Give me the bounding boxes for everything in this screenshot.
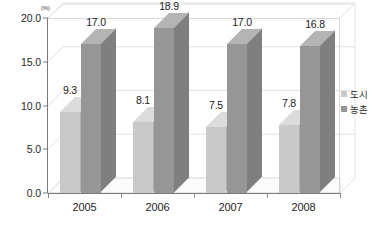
legend-label-dosi: 도시 bbox=[350, 87, 368, 101]
bars-layer: 9.317.08.118.97.517.07.816.8 bbox=[0, 0, 387, 225]
x-axis-category-label: 2005 bbox=[55, 201, 115, 213]
bar-front-face bbox=[227, 44, 247, 193]
bar-side-face bbox=[320, 30, 336, 193]
bar-data-label: 9.3 bbox=[51, 84, 89, 96]
bar-2008-dosi[interactable] bbox=[279, 125, 299, 193]
bar-data-label: 16.8 bbox=[296, 18, 334, 30]
x-axis-tick-mark bbox=[194, 193, 195, 198]
chart-legend: 도시 농촌 bbox=[341, 87, 368, 117]
legend-swatch-icon-nongchon bbox=[341, 106, 347, 112]
bar-top-face bbox=[154, 13, 190, 29]
bar-2007-dosi[interactable] bbox=[206, 127, 226, 193]
x-axis-tick-mark bbox=[121, 193, 122, 198]
legend-swatch-icon-dosi bbox=[341, 91, 347, 97]
bar-data-label: 8.1 bbox=[124, 94, 162, 106]
bar-data-label: 18.9 bbox=[150, 0, 188, 12]
bar-2006-dosi[interactable] bbox=[133, 122, 153, 193]
bar-2006-nongchon[interactable] bbox=[154, 28, 174, 193]
bar-top-face bbox=[81, 29, 117, 45]
legend-label-nongchon: 농촌 bbox=[350, 102, 368, 116]
bar-2008-nongchon[interactable] bbox=[300, 46, 320, 193]
x-axis-category-label: 2008 bbox=[274, 201, 334, 213]
bar-top-face bbox=[300, 31, 336, 47]
bar-side-face bbox=[101, 28, 117, 193]
legend-item-dosi[interactable]: 도시 bbox=[341, 87, 368, 100]
bar-top-face bbox=[227, 29, 263, 45]
bar-front-face bbox=[81, 44, 101, 193]
x-axis-tick-mark bbox=[340, 193, 341, 198]
bar-front-face bbox=[133, 122, 153, 193]
bar-front-face bbox=[206, 127, 226, 193]
bar-side-face bbox=[174, 12, 190, 193]
bar-2007-nongchon[interactable] bbox=[227, 44, 247, 193]
bar-front-face bbox=[300, 46, 320, 193]
bar-chart: (%) 0.05.010.015.020.0 9.317.08.118.97.5… bbox=[0, 0, 387, 225]
bar-front-face bbox=[279, 125, 299, 193]
legend-item-nongchon[interactable]: 농촌 bbox=[341, 102, 368, 115]
bar-2005-dosi[interactable] bbox=[60, 112, 80, 193]
x-axis-tick-mark bbox=[267, 193, 268, 198]
x-axis-tick-mark bbox=[48, 193, 49, 198]
x-axis-category-label: 2007 bbox=[201, 201, 261, 213]
bar-data-label: 17.0 bbox=[223, 16, 261, 28]
bar-side-face bbox=[247, 28, 263, 193]
bar-data-label: 7.5 bbox=[197, 99, 235, 111]
x-axis-category-label: 2006 bbox=[128, 201, 188, 213]
bar-data-label: 7.8 bbox=[270, 97, 308, 109]
bar-front-face bbox=[154, 28, 174, 193]
bar-front-face bbox=[60, 112, 80, 193]
bar-data-label: 17.0 bbox=[77, 16, 115, 28]
bar-2005-nongchon[interactable] bbox=[81, 44, 101, 193]
